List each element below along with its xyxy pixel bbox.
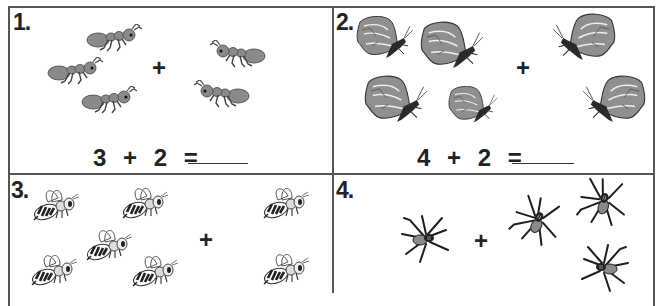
bee-icon: [131, 254, 179, 290]
problem-2-number: 2.: [336, 11, 353, 34]
bee-icon: [121, 186, 169, 222]
bee-icon: [30, 253, 78, 289]
butterfly-icon: [582, 74, 646, 126]
ant-icon: [47, 57, 105, 87]
butterfly-icon: [447, 86, 499, 124]
addend-a: 4: [417, 146, 430, 170]
problem-3-number: 3.: [11, 179, 28, 202]
butterfly-icon: [364, 75, 428, 125]
equals: =: [508, 146, 522, 170]
ant-icon: [208, 40, 266, 70]
bee-icon: [262, 186, 310, 222]
bee-icon: [85, 228, 133, 264]
bee-icon: [32, 188, 80, 224]
answer-blank-2[interactable]: [512, 163, 574, 164]
equation-1: 3 + 2 =: [93, 146, 198, 170]
equals: =: [184, 146, 198, 170]
addend-b: 2: [478, 146, 491, 170]
addend-a: 3: [93, 146, 106, 170]
plus-sign: +: [199, 228, 213, 252]
butterfly-icon: [552, 12, 616, 64]
butterfly-icon: [420, 20, 484, 72]
addend-b: 2: [154, 146, 167, 170]
equation-2: 4 + 2 =: [417, 146, 522, 170]
plus-sign: +: [474, 229, 488, 253]
ant-icon: [86, 24, 144, 54]
problem-4-number: 4.: [336, 179, 353, 202]
butterfly-icon: [356, 16, 416, 60]
plus-sign: +: [152, 56, 166, 80]
spider-icon: [580, 243, 630, 293]
horizontal-divider: [8, 173, 655, 175]
operator: +: [123, 146, 137, 170]
plus-sign: +: [516, 56, 530, 80]
ant-icon: [192, 80, 250, 110]
vertical-divider: [332, 6, 334, 293]
bee-icon: [262, 252, 310, 288]
answer-blank-1[interactable]: [188, 163, 248, 164]
problem-1-number: 1.: [13, 11, 30, 34]
operator: +: [447, 146, 461, 170]
spider-icon: [400, 214, 450, 264]
ant-icon: [81, 86, 139, 116]
